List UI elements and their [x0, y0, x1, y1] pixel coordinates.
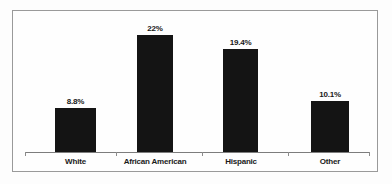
axis-tick [369, 152, 370, 156]
bar[interactable] [311, 101, 349, 152]
figure: 8.8% White 22% African American 19.4% Hi… [0, 0, 392, 184]
bar-value-label: 8.8% [67, 97, 84, 106]
category-label: White [55, 157, 96, 166]
category-label: Hispanic [209, 157, 273, 166]
bar-value-label: 10.1% [319, 90, 341, 99]
bar-value-label: 22% [147, 24, 162, 33]
bar[interactable] [223, 49, 258, 152]
bar-value-label: 19.4% [230, 38, 252, 47]
bar-group[interactable]: 19.4% [223, 49, 258, 152]
axis-tick [116, 152, 117, 156]
axis-tick [25, 152, 26, 156]
axis-tick [288, 152, 289, 156]
bar-group[interactable]: 22% [137, 35, 173, 152]
bar-group[interactable]: 10.1% [311, 101, 349, 152]
bar[interactable] [137, 35, 173, 152]
category-axis-line [25, 152, 369, 153]
category-label: Other [303, 157, 357, 166]
plot-area: 8.8% White 22% African American 19.4% Hi… [13, 11, 379, 173]
bar[interactable] [55, 108, 96, 152]
category-label: African American [113, 157, 197, 166]
bar-group[interactable]: 8.8% [55, 108, 96, 152]
chart-frame: 8.8% White 22% African American 19.4% Hi… [12, 10, 378, 172]
axis-tick [202, 152, 203, 156]
